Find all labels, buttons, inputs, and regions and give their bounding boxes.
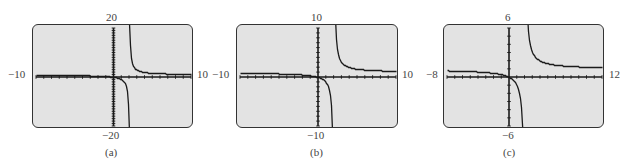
panel-a-ymin-label: −20	[102, 129, 119, 141]
function-curve	[335, 25, 397, 72]
panel-c-caption: (c)	[503, 146, 515, 158]
panel-c-plot	[444, 25, 604, 128]
panel-a-screen	[32, 24, 193, 128]
panel-b-ymin-label: −10	[307, 129, 324, 141]
panel-a-xmax-label: 10	[197, 68, 208, 80]
panel-a-ymax-label: 20	[106, 11, 117, 23]
panel-b-xmax-label: 10	[402, 68, 413, 80]
function-curve	[130, 25, 192, 75]
panel-b-caption: (b)	[310, 146, 323, 158]
panel-a-caption: (a)	[105, 146, 117, 158]
panel-b-screen	[236, 24, 398, 128]
figure: 20 −10 10 −20 (a) 10 −10 10 −10 (b) 6 −8…	[0, 0, 623, 167]
panel-c-xmax-label: 12	[609, 68, 620, 80]
panel-c-screen	[443, 24, 604, 128]
panel-a-xmin-label: −10	[8, 68, 25, 80]
panel-c-xmin-label: −8	[426, 68, 438, 80]
panel-a-plot	[33, 25, 193, 128]
function-curve	[526, 25, 603, 68]
panel-c-ymax-label: 6	[505, 11, 511, 23]
function-curve	[448, 71, 525, 129]
panel-b-plot	[237, 25, 398, 128]
panel-c-ymin-label: −6	[502, 129, 514, 141]
panel-b-xmin-label: −10	[212, 68, 229, 80]
function-curve	[37, 76, 130, 129]
panel-b-ymax-label: 10	[311, 11, 322, 23]
